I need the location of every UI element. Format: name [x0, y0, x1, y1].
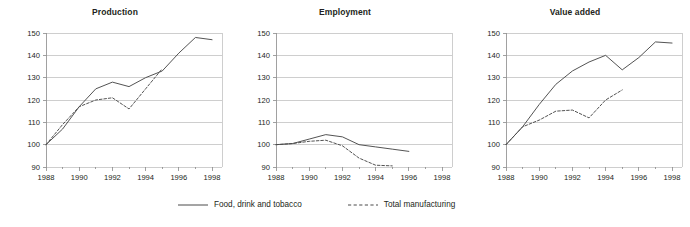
svg-text:110: 110: [488, 118, 500, 127]
svg-text:1996: 1996: [170, 173, 187, 182]
legend-entry-total-manufacturing: Total manufacturing: [348, 200, 455, 209]
svg-text:90: 90: [32, 163, 40, 172]
svg-text:150: 150: [257, 29, 270, 38]
figure-container: Production 90100110120130140150198819901…: [0, 0, 690, 227]
svg-text:1994: 1994: [367, 173, 384, 182]
chart-panel-value-added: Value added 9010011012013014015019881990…: [460, 0, 690, 190]
svg-text:150: 150: [27, 29, 40, 38]
svg-text:100: 100: [27, 140, 40, 149]
svg-text:1996: 1996: [630, 173, 647, 182]
chart-legend: Food, drink and tobacco Total manufactur…: [0, 193, 690, 227]
svg-text:1998: 1998: [434, 173, 451, 182]
svg-text:120: 120: [27, 96, 40, 105]
svg-text:90: 90: [262, 163, 270, 172]
svg-text:90: 90: [492, 163, 500, 172]
legend-entries: Food, drink and tobacco Total manufactur…: [178, 200, 455, 209]
svg-text:120: 120: [487, 96, 500, 105]
svg-text:150: 150: [487, 29, 500, 38]
svg-text:130: 130: [257, 73, 270, 82]
chart-panel-production: Production 90100110120130140150198819901…: [0, 0, 230, 190]
svg-text:1992: 1992: [564, 173, 581, 182]
svg-text:110: 110: [28, 118, 40, 127]
svg-text:140: 140: [257, 51, 270, 60]
svg-text:1996: 1996: [400, 173, 417, 182]
dashed-line-swatch-icon: [348, 201, 378, 209]
legend-entry-food-drink-tobacco: Food, drink and tobacco: [178, 200, 302, 209]
svg-text:1988: 1988: [268, 173, 285, 182]
svg-text:1990: 1990: [71, 173, 88, 182]
svg-text:130: 130: [27, 73, 40, 82]
line-chart-production: 9010011012013014015019881990199219941996…: [0, 0, 230, 190]
svg-text:1994: 1994: [597, 173, 614, 182]
svg-text:100: 100: [487, 140, 500, 149]
chart-panels: Production 90100110120130140150198819901…: [0, 0, 690, 190]
legend-label-food-drink-tobacco: Food, drink and tobacco: [214, 200, 302, 209]
svg-text:1994: 1994: [137, 173, 154, 182]
svg-text:1998: 1998: [204, 173, 221, 182]
line-chart-employment: 9010011012013014015019881990199219941996…: [230, 0, 460, 190]
legend-label-total-manufacturing: Total manufacturing: [384, 200, 455, 209]
svg-text:1988: 1988: [498, 173, 515, 182]
svg-text:1992: 1992: [334, 173, 351, 182]
line-chart-value-added: 9010011012013014015019881990199219941996…: [460, 0, 690, 190]
svg-text:1998: 1998: [664, 173, 681, 182]
svg-text:1990: 1990: [301, 173, 318, 182]
svg-text:140: 140: [27, 51, 40, 60]
svg-text:1992: 1992: [104, 173, 121, 182]
svg-text:100: 100: [257, 140, 270, 149]
svg-text:120: 120: [257, 96, 270, 105]
svg-text:1988: 1988: [38, 173, 55, 182]
svg-text:1990: 1990: [531, 173, 548, 182]
svg-text:110: 110: [258, 118, 270, 127]
svg-text:140: 140: [487, 51, 500, 60]
svg-text:130: 130: [487, 73, 500, 82]
solid-line-swatch-icon: [178, 201, 208, 209]
chart-panel-employment: Employment 90100110120130140150198819901…: [230, 0, 460, 190]
